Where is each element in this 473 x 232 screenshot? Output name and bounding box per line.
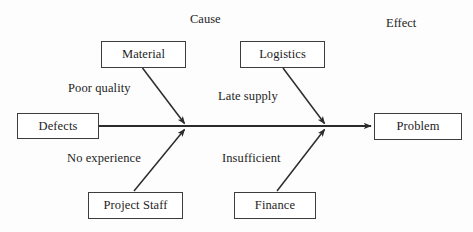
spine-start-box-defects-label: Defects [39,119,78,134]
cause-box-finance[interactable]: Finance [234,192,316,219]
branch-label-late-supply: Late supply [218,89,278,104]
branch-line-material [143,68,185,124]
cause-box-project-staff-label: Project Staff [104,198,168,213]
branch-label-insufficient: Insufficient [222,151,281,166]
cause-box-project-staff[interactable]: Project Staff [88,192,183,219]
effect-box-problem[interactable]: Problem [374,113,462,140]
cause-box-logistics[interactable]: Logistics [240,41,325,68]
cause-box-finance-label: Finance [255,198,295,213]
branch-line-finance [277,130,325,192]
cause-box-material-label: Material [122,47,165,62]
cause-box-logistics-label: Logistics [259,47,306,62]
branch-line-logistics [283,68,325,124]
fishbone-diagram-canvas: Cause Effect Material Logistics Project … [0,0,473,232]
branch-label-no-experience: No experience [67,151,141,166]
branch-line-project-staff [134,130,185,192]
cause-box-material[interactable]: Material [101,41,186,68]
effect-header-label: Effect [386,16,416,31]
cause-header-label: Cause [190,12,221,27]
effect-box-problem-label: Problem [396,119,439,134]
spine-start-box-defects[interactable]: Defects [17,113,99,139]
branch-label-poor-quality: Poor quality [68,81,131,96]
